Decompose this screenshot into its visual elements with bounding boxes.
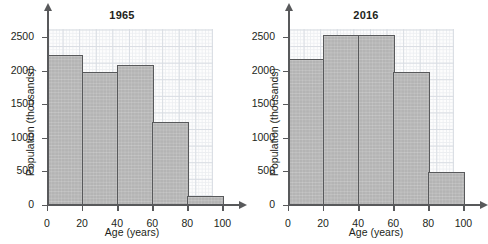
bar-40-60 — [117, 65, 153, 206]
bar-80-100 — [428, 172, 464, 206]
x-axis-label-2016: Age (years) — [274, 226, 478, 238]
x-tick-80: 80 — [428, 206, 429, 211]
bar-60-80 — [152, 122, 188, 206]
y-axis-label-2016: Population (thousands) — [268, 37, 280, 207]
y-tick-1000: 1000 — [42, 138, 47, 139]
x-axis-arrow-icon-2016 — [480, 201, 488, 209]
y-tick-label-0: 0 — [0, 198, 34, 210]
histogram-figure: 1965 Population (thousands) 050010001500… — [0, 0, 488, 244]
y-tick-label-500: 500 — [235, 164, 275, 176]
y-tick-2500: 2500 — [42, 37, 47, 38]
x-axis-line-2016 — [288, 204, 481, 206]
y-tick-label-2000: 2000 — [0, 64, 34, 76]
y-tick-label-1000: 1000 — [0, 131, 34, 143]
y-tick-500: 500 — [283, 171, 288, 172]
x-axis-line-1965 — [47, 204, 240, 206]
y-tick-1000: 1000 — [283, 138, 288, 139]
y-tick-label-2000: 2000 — [235, 64, 275, 76]
x-tick-100: 100 — [463, 206, 464, 211]
bar-40-60 — [358, 35, 394, 206]
y-tick-2000: 2000 — [42, 71, 47, 72]
bar-20-40 — [323, 35, 359, 206]
bar-20-40 — [82, 72, 118, 206]
chart-panel-1965: 1965 Population (thousands) 050010001500… — [0, 0, 244, 244]
x-tick-60: 60 — [152, 206, 153, 211]
y-axis-line-2016 — [288, 9, 290, 206]
x-tick-20: 20 — [82, 206, 83, 211]
y-axis-line-1965 — [47, 9, 49, 206]
x-tick-40: 40 — [117, 206, 118, 211]
y-tick-label-2500: 2500 — [235, 30, 275, 42]
y-axis-label-1965: Population (thousands) — [24, 37, 36, 207]
plot-area-2016: 05001000150020002500 020406080100 — [288, 24, 448, 206]
x-tick-60: 60 — [393, 206, 394, 211]
y-tick-label-1500: 1500 — [0, 97, 34, 109]
y-tick-500: 500 — [42, 171, 47, 172]
bar-0-20 — [288, 59, 324, 206]
plot-area-1965: 05001000150020002500 020406080100 — [47, 24, 207, 206]
x-tick-80: 80 — [187, 206, 188, 211]
x-tick-0: 0 — [47, 206, 48, 211]
x-tick-20: 20 — [323, 206, 324, 211]
chart-title-1965: 1965 — [0, 9, 244, 21]
y-tick-label-0: 0 — [235, 198, 275, 210]
y-axis-arrow-icon-2016 — [285, 3, 293, 11]
x-tick-100: 100 — [222, 206, 223, 211]
bars-group-1965 — [47, 25, 213, 206]
y-tick-label-1500: 1500 — [235, 97, 275, 109]
y-tick-2000: 2000 — [283, 71, 288, 72]
bar-60-80 — [393, 72, 429, 206]
bar-0-20 — [47, 55, 83, 206]
y-tick-2500: 2500 — [283, 37, 288, 38]
x-tick-40: 40 — [358, 206, 359, 211]
chart-title-2016: 2016 — [244, 9, 488, 21]
y-tick-1500: 1500 — [42, 104, 47, 105]
x-tick-0: 0 — [288, 206, 289, 211]
y-tick-1500: 1500 — [283, 104, 288, 105]
y-tick-label-1000: 1000 — [235, 131, 275, 143]
y-axis-arrow-icon-1965 — [44, 3, 52, 11]
y-tick-label-500: 500 — [0, 164, 34, 176]
chart-panel-2016: 2016 Population (thousands) 050010001500… — [244, 0, 488, 244]
y-tick-label-2500: 2500 — [0, 30, 34, 42]
bars-group-2016 — [288, 25, 454, 206]
x-axis-label-1965: Age (years) — [30, 226, 234, 238]
